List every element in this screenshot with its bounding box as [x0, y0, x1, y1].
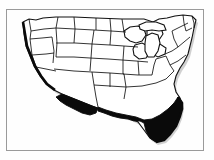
- us-state-map: [6, 9, 204, 151]
- us-map-svg: [6, 9, 204, 151]
- screenshot-root: [0, 0, 214, 160]
